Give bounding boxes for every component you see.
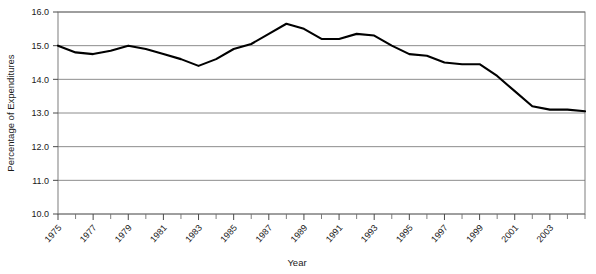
y-tick-label: 10.0 [31, 209, 49, 219]
y-tick-label: 15.0 [31, 41, 49, 51]
y-tick-label: 16.0 [31, 7, 49, 17]
line-chart: 16.015.014.013.012.011.010.0 19751977197… [0, 0, 596, 274]
y-tick-label: 11.0 [32, 176, 49, 186]
chart-canvas: 16.015.014.013.012.011.010.0 19751977197… [0, 0, 596, 274]
y-tick-label: 13.0 [31, 108, 49, 118]
y-tick-label: 12.0 [31, 142, 49, 152]
y-axis-title: Percentage of Expenditures [5, 54, 16, 171]
x-axis-title: Year [287, 257, 306, 268]
y-tick-label: 14.0 [31, 75, 49, 85]
